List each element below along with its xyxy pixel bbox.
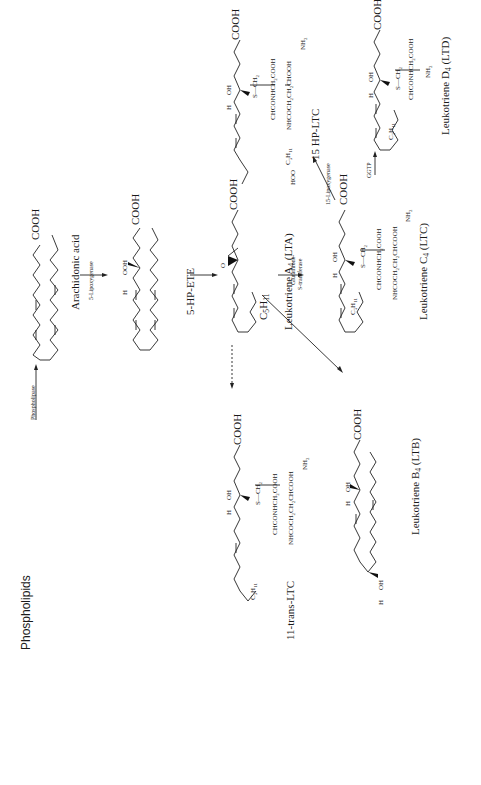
- 5-hp-ete-label: 5-HP-ETE: [185, 268, 196, 315]
- ooh-label: OOH: [122, 260, 129, 275]
- 11-trans-ltc-label: 11-trans-LTC: [285, 581, 296, 640]
- chconhch2cooh-label: CHCONHCH2COOH: [272, 473, 281, 535]
- epoxide-o-label: O: [220, 263, 227, 268]
- nhcoch2ch2chcooh-label: NHCOCH2CH2CHCOOH: [392, 226, 401, 300]
- chconhch2cooh-label: CHCONHCH2COOH: [270, 58, 279, 120]
- ltd-label: Leukotriene D4 (LTD): [440, 37, 453, 135]
- oh-label: OH: [226, 490, 233, 500]
- 5-hp-ete-structure: [128, 228, 158, 350]
- lta-to-ltb-arrow: [262, 295, 340, 370]
- c5h11-label: C5H11: [285, 148, 294, 165]
- oh-label: OH: [378, 580, 385, 590]
- h-label: H: [122, 290, 129, 295]
- leukotriene-pathway-diagram: Phospholipids Phospholipase COOH Arachid…: [0, 0, 481, 785]
- ggtp-label: GGTP: [366, 162, 372, 178]
- nhcoch2ch2chcooh-label: NHCOCH2CH2CHCOOH: [288, 471, 297, 545]
- 15-hp-ltc-structure: [234, 40, 290, 184]
- s-ch2-label: S—CH2: [395, 67, 404, 90]
- cooh-label: COOH: [230, 9, 241, 40]
- ltc-label: Leukotriene C4 (LTC): [418, 223, 431, 320]
- 5-lipoxygenase-label: 5-Lipoxygenase: [88, 261, 94, 300]
- arachidonic-acid-structure: [33, 235, 58, 360]
- c5h11-label: C5H11: [388, 123, 397, 140]
- s-ch2-label: S—CH2: [360, 245, 369, 268]
- h-label: H: [378, 600, 385, 605]
- chconhch2cooh-label: CHCONHCH2COOH: [376, 228, 385, 290]
- c5h11-label: C5H11: [250, 583, 259, 600]
- pathway-skeleton: [0, 0, 481, 785]
- h-label: H: [345, 501, 352, 506]
- ltb-label: Leukotriene B4 (LTB): [410, 438, 423, 535]
- oh-label: OH: [226, 85, 233, 95]
- 15-lipoxygenase-label: 15-Lipoxygenase: [325, 163, 331, 205]
- cooh-label: COOH: [228, 179, 239, 210]
- oh-label: OH: [368, 72, 375, 82]
- oh-label: OH: [345, 482, 352, 492]
- s-ch2-label: S—CH2: [255, 482, 264, 505]
- nh2-label: NH2: [302, 457, 311, 470]
- nh2-label: NH2: [405, 209, 414, 222]
- c5h11-label: C5H11: [350, 298, 359, 315]
- c5h11-label: C5H11: [258, 293, 271, 320]
- nhcoch2ch2chooh-label: NHCOCH2CH2CHOOH: [286, 61, 295, 130]
- lta-structure: [228, 210, 256, 332]
- phospholipids-label: Phospholipids: [20, 575, 32, 650]
- gst-label-line2: S-transferase: [297, 259, 303, 290]
- nh2-label: NH2: [425, 65, 434, 78]
- oh-label: OH: [332, 252, 339, 262]
- cooh-label: COOH: [372, 0, 383, 30]
- h-label: H: [226, 510, 233, 515]
- cooh-label: COOH: [232, 414, 243, 445]
- gst-label-line1: Glutathione-: [290, 255, 296, 285]
- nh2-label: NH2: [300, 37, 309, 50]
- h-label: H: [332, 273, 339, 278]
- cooh-label: COOH: [130, 194, 141, 225]
- h-label: H: [226, 105, 233, 110]
- cooh-label: COOH: [352, 409, 363, 440]
- phospholipase-label: Phospholipase: [30, 385, 36, 420]
- ltb-structure: [350, 440, 378, 578]
- s-ch2-label: S—CH2: [252, 75, 261, 98]
- arachidonic-acid-label: Arachidonic acid: [70, 235, 81, 310]
- h-label: H: [368, 93, 375, 98]
- cooh-label: COOH: [30, 209, 41, 240]
- hoo-label: HOO: [290, 170, 297, 185]
- 15-hp-ltc-label: 15 HP-LTC: [310, 109, 321, 160]
- chconhch2cooh-label: CHCONHCH2COOH: [408, 38, 417, 100]
- cooh-label: COOH: [338, 174, 349, 205]
